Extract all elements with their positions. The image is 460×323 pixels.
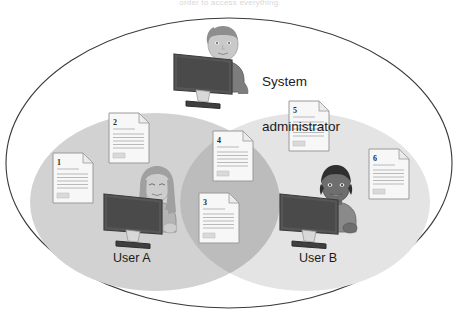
document-4[interactable]: 4	[213, 131, 253, 181]
document-6-number: 6	[373, 154, 377, 163]
document-3[interactable]: 3	[199, 193, 239, 243]
top-caption: order to access everything.	[0, 0, 460, 8]
document-2-number: 2	[113, 118, 117, 127]
document-2[interactable]: 2	[109, 113, 149, 163]
label-admin-line1: System	[262, 74, 340, 89]
document-6[interactable]: 6	[369, 149, 409, 199]
label-user-b: User B	[299, 251, 337, 265]
venn-diagram-svg: 1 2 3 4 5 6	[0, 0, 460, 323]
label-system-administrator: System administrator	[262, 44, 340, 164]
document-1[interactable]: 1	[53, 153, 93, 203]
label-user-a: User A	[113, 251, 151, 265]
diagram-canvas: order to access everything.	[0, 0, 460, 323]
document-3-number: 3	[203, 198, 207, 207]
label-admin-line2: administrator	[262, 119, 340, 134]
document-1-number: 1	[57, 158, 61, 167]
document-4-number: 4	[217, 136, 221, 145]
